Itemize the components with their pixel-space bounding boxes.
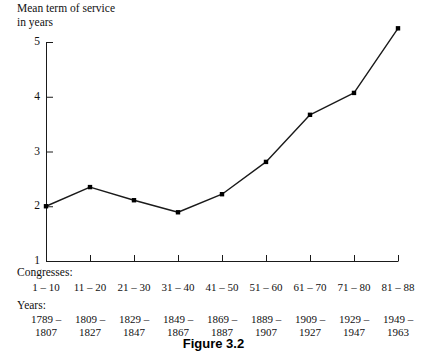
y-axis-tick-label: 3 [20, 145, 40, 157]
data-point-marker [264, 160, 268, 164]
congress-label: 81 – 88 [368, 281, 427, 294]
figure-container: Mean term of service in years 12345 Cong… [0, 0, 427, 356]
line-chart-plot [0, 0, 427, 356]
data-series-line [46, 28, 398, 212]
data-point-marker [132, 198, 136, 202]
data-point-marker [176, 210, 180, 214]
y-axis-tick-label: 4 [20, 90, 40, 102]
years-row-heading: Years: [17, 299, 46, 311]
x-axis-ticks [47, 255, 399, 262]
chart-axes [46, 42, 398, 262]
y-axis-tick-label: 1 [20, 254, 40, 266]
congresses-row-heading: Congresses: [17, 266, 73, 278]
data-point-marker [88, 185, 92, 189]
figure-caption: Figure 3.2 [0, 336, 427, 351]
data-point-marker [308, 113, 312, 117]
y-axis-tick-label: 5 [20, 35, 40, 47]
y-axis-tick-label: 2 [20, 199, 40, 211]
data-point-marker [396, 26, 400, 30]
data-point-marker [352, 91, 356, 95]
data-point-marker [220, 192, 224, 196]
data-point-marker [44, 204, 48, 208]
data-point-markers [44, 26, 400, 214]
y-axis-ticks [46, 43, 53, 262]
